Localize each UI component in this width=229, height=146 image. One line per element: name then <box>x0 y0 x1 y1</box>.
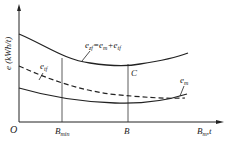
b-tick-label: B <box>124 126 130 136</box>
curve-em <box>19 88 187 103</box>
ezf-leader <box>82 51 90 61</box>
y-axis-arrow-icon <box>17 4 21 11</box>
bmin-tick-label: Bmin <box>55 126 70 137</box>
origin-label: O <box>10 124 17 135</box>
y-axis-label: e (kWh/t) <box>3 37 13 70</box>
diagram-canvas: e (kWh/t) ezf=em+etf etf em C O Bmin B B… <box>0 0 229 146</box>
x-axis-arrow-icon <box>216 120 224 124</box>
x-axis-label: Bm,t <box>197 126 212 137</box>
point-c-label: C <box>131 68 138 78</box>
etf-label: etf <box>40 61 49 72</box>
ezf-label: ezf=em+etf <box>85 40 122 51</box>
etf-leader <box>39 73 43 80</box>
em-label: em <box>180 75 189 86</box>
